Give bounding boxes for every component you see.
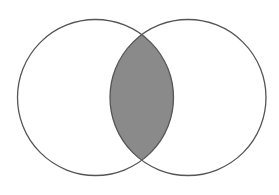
intersection-region [110, 20, 266, 176]
venn-diagram [0, 0, 279, 195]
